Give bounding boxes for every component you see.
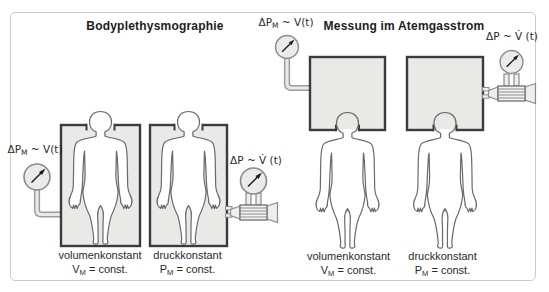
caption-volumenkonstant-left: volumenkonstant VM = const. bbox=[58, 249, 141, 279]
pressure-gauge-1-icon bbox=[24, 164, 50, 190]
gauge-3-label-pre: ΔP bbox=[259, 16, 273, 28]
title-messung-im-atemgasstrom: Messung im Atemgasstrom bbox=[324, 19, 485, 33]
gauge-2-label-pre: ΔP ~ V̇ (t) bbox=[230, 154, 282, 166]
caption-eq-post: = const. bbox=[428, 264, 470, 276]
caption-eq-post: = const. bbox=[334, 264, 376, 276]
diagram-canvas: Bodyplethysmographie Messung im Atemgass… bbox=[0, 0, 549, 292]
caption-line1: volumenkonstant bbox=[307, 250, 390, 264]
caption-volumenkonstant-right: volumenkonstant VM = const. bbox=[307, 250, 390, 280]
pressure-gauge-2-icon bbox=[241, 168, 267, 194]
human-figure-3 bbox=[316, 113, 379, 249]
caption-eq-pre: P bbox=[415, 264, 422, 276]
gauge-1-label: ΔPM ~ V(t) bbox=[8, 143, 63, 157]
caption-line2: PM = const. bbox=[408, 264, 476, 281]
pressure-gauge-3-icon bbox=[276, 36, 299, 59]
caption-druckkonstant-left: druckkonstant PM = const. bbox=[153, 249, 221, 279]
gauge-1-tube bbox=[37, 188, 63, 215]
gauge-1-label-pre: ΔP bbox=[8, 143, 22, 155]
caption-eq-pre: P bbox=[160, 263, 167, 275]
title-bodyplethysmographie: Bodyplethysmographie bbox=[86, 19, 223, 33]
head-chamber-3 bbox=[310, 57, 385, 130]
chamber-neck-gaps bbox=[87, 123, 457, 132]
gauge-4-label: ΔP ~ V̇ (t) bbox=[486, 30, 538, 44]
human-figure-4 bbox=[414, 113, 477, 249]
caption-line2: VM = const. bbox=[307, 264, 390, 281]
gauge-1-label-post: ~ V(t) bbox=[28, 143, 63, 155]
gauge-3-label: ΔPM ~ V(t) bbox=[259, 16, 314, 30]
caption-line1: volumenkonstant bbox=[58, 249, 141, 263]
caption-line1: druckkonstant bbox=[153, 249, 221, 263]
head-chamber-4 bbox=[407, 57, 483, 130]
gauge-3-label-post: ~ V(t) bbox=[279, 16, 314, 28]
caption-eq-post: = const. bbox=[86, 263, 128, 275]
pneumotachograph-4-icon bbox=[489, 74, 536, 104]
caption-line1: druckkonstant bbox=[408, 250, 476, 264]
pressure-gauge-4-icon bbox=[500, 51, 523, 74]
caption-line2: VM = const. bbox=[58, 263, 141, 280]
gauge-3-tube bbox=[287, 56, 312, 88]
caption-line2: PM = const. bbox=[153, 263, 221, 280]
caption-eq-post: = const. bbox=[173, 263, 215, 275]
caption-druckkonstant-right: druckkonstant PM = const. bbox=[408, 250, 476, 280]
pneumotachograph-2-icon bbox=[231, 193, 278, 223]
gauge-4-label-pre: ΔP ~ V̇ (t) bbox=[486, 30, 538, 42]
gauge-2-label: ΔP ~ V̇ (t) bbox=[230, 154, 282, 168]
